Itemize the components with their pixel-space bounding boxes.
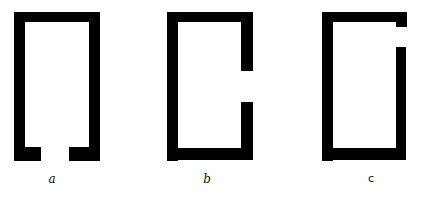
shape-c (322, 12, 407, 161)
shape-a (14, 12, 100, 161)
shape-b (167, 12, 253, 161)
label-b: b (203, 172, 211, 186)
label-c: c (368, 172, 374, 185)
label-a: a (48, 172, 55, 186)
figure-canvas (0, 0, 425, 199)
